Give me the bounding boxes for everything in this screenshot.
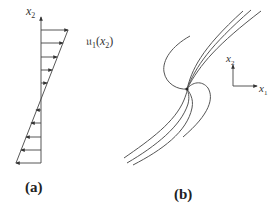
axis-x2-label: x2 (225, 52, 235, 67)
stagnation-point (185, 87, 188, 90)
panel-a-label: (a) (25, 179, 43, 196)
panel-b-streamlines: x2 x1 (b) (124, 10, 268, 203)
streamline-3 (133, 11, 261, 165)
axis-x1-label: x1 (258, 82, 268, 97)
x2-axis-label: x2 (25, 4, 35, 20)
panel-a-shear-profile: x2 𝔲1(x2) (a) (16, 4, 113, 196)
velocity-profile-label: 𝔲1(x2) (86, 34, 113, 50)
figure: x2 𝔲1(x2) (a) x2 x1 (b) (0, 0, 276, 207)
streamline-left-arm (164, 36, 190, 89)
profile-line (16, 30, 68, 163)
panel-b-label: (b) (174, 186, 192, 203)
